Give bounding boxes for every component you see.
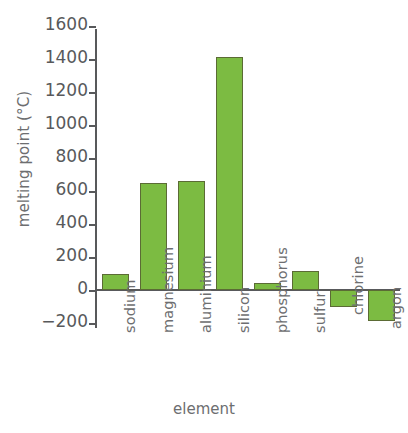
- y-axis-tick-mark: [89, 158, 96, 160]
- y-axis-line: [95, 29, 97, 328]
- y-axis-tick-label: 1400: [28, 48, 88, 67]
- x-axis-label-chlorine: chlorine: [350, 256, 366, 315]
- bar-chart: melting point (°C) −20002004006008001000…: [0, 0, 408, 433]
- x-axis-label-argon: argon: [388, 287, 404, 329]
- y-axis-tick-mark: [89, 323, 96, 325]
- x-axis-label-sodium: sodium: [122, 279, 138, 333]
- x-axis-label-aluminium: aluminium: [198, 255, 214, 333]
- y-axis-tick-mark: [89, 92, 96, 94]
- y-axis-tick-label: 800: [28, 147, 88, 166]
- y-axis-tick-label: −200: [28, 312, 88, 331]
- x-axis-title: element: [0, 400, 408, 418]
- x-axis-label-silicon: silicon: [236, 287, 252, 333]
- y-axis-tick-label: 1000: [28, 114, 88, 133]
- x-axis-label-phosphorus: phosphorus: [274, 247, 290, 333]
- bar-sulfur: [292, 271, 319, 290]
- y-axis-tick-mark: [89, 59, 96, 61]
- y-axis-tick-label: 200: [28, 246, 88, 265]
- y-axis-tick-label: 1200: [28, 81, 88, 100]
- x-axis-label-sulfur: sulfur: [312, 291, 328, 333]
- y-axis-tick-label: 0: [28, 279, 88, 298]
- y-axis-tick-mark: [89, 290, 96, 292]
- y-axis-tick-mark: [89, 257, 96, 259]
- y-axis-tick-label: 600: [28, 180, 88, 199]
- y-axis-tick-mark: [89, 191, 96, 193]
- x-axis-label-magnesium: magnesium: [160, 247, 176, 333]
- y-axis-tick-mark: [89, 125, 96, 127]
- y-axis-tick-mark: [89, 26, 96, 28]
- y-axis-tick-label: 400: [28, 213, 88, 232]
- y-axis-tick-label: 1600: [28, 15, 88, 34]
- bar-silicon: [216, 57, 243, 290]
- y-axis-tick-mark: [89, 224, 96, 226]
